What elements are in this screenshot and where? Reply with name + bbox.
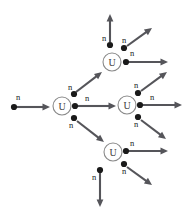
nucleus-label: U (123, 100, 131, 111)
fission-svg: UUUU nnnnnnnnnnnnn (0, 0, 190, 216)
neutron-dot (135, 90, 141, 96)
nucleus-label: U (58, 101, 66, 112)
uranium-nucleus: U (118, 96, 136, 114)
neutron-dot (107, 42, 113, 48)
neutron-dot (123, 148, 129, 154)
fission-diagram: UUUU nnnnnnnnnnnnn (0, 0, 190, 216)
nucleus-label: U (108, 57, 116, 68)
neutron-dot (72, 103, 78, 109)
uranium-nucleus: U (103, 53, 121, 71)
nucleus-label: U (109, 147, 117, 158)
neutron-dot (97, 167, 103, 173)
uranium-nucleus: U (53, 97, 71, 115)
uranium-nucleus: U (104, 143, 122, 161)
neutron-dot (123, 59, 129, 65)
neutron-dot (121, 45, 127, 51)
neutron-dot (137, 102, 143, 108)
neutron-dot (11, 104, 17, 110)
